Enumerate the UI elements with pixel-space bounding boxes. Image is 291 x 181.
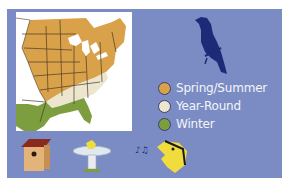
birdhouse-icon	[19, 137, 53, 177]
svg-text:♪♫: ♪♫	[135, 145, 149, 155]
map-graphic	[16, 12, 132, 131]
legend-label: Winter	[176, 117, 214, 131]
legend: Spring/Summer Year-Round Winter	[158, 79, 267, 133]
winter-swatch	[158, 118, 171, 131]
legend-item-year-round: Year-Round	[158, 97, 267, 115]
birdbath-icon	[70, 139, 114, 177]
legend-label: Year-Round	[176, 99, 241, 113]
range-map-panel: Spring/Summer Year-Round Winter	[7, 9, 282, 178]
range-map	[16, 12, 132, 131]
legend-item-spring-summer: Spring/Summer	[158, 79, 267, 97]
year-round-swatch	[158, 100, 171, 113]
legend-item-winter: Winter	[158, 115, 267, 133]
bird-silhouette-icon	[191, 14, 231, 80]
legend-label: Spring/Summer	[176, 81, 267, 95]
spring-summer-swatch	[158, 82, 171, 95]
singing-bird-icon: ♪♫	[135, 137, 195, 179]
